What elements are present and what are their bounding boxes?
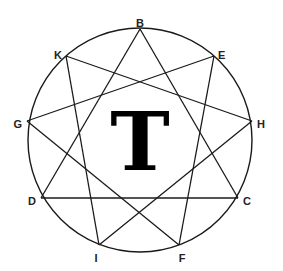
line-k-i: [66, 56, 99, 245]
point-label-e: E: [218, 49, 225, 61]
point-label-b: B: [136, 17, 144, 29]
enneagram-diagram: BEHCFIDGK T: [0, 0, 283, 271]
point-label-h: H: [257, 118, 265, 130]
point-label-d: D: [28, 195, 36, 207]
point-label-i: I: [94, 252, 97, 264]
point-label-f: F: [179, 252, 186, 264]
point-label-c: C: [243, 195, 251, 207]
line-e-f: [179, 56, 214, 245]
point-label-g: G: [13, 118, 22, 130]
center-letter-t: T: [110, 95, 170, 189]
point-label-k: K: [54, 49, 62, 61]
